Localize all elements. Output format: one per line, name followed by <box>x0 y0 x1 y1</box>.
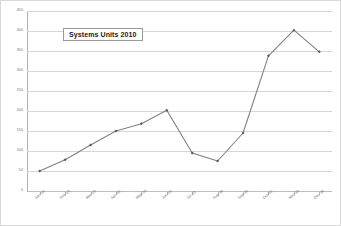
series-polyline <box>40 30 320 171</box>
y-axis-tick-label: 0 <box>3 189 23 193</box>
y-axis-tick-label: 400 <box>3 29 23 33</box>
y-axis-tick-label: 300 <box>3 69 23 73</box>
y-axis-tick-label: 450 <box>3 9 23 13</box>
y-axis-tick-label: 250 <box>3 89 23 93</box>
y-axis-tick-label: 350 <box>3 49 23 53</box>
y-axis-tick-label: 100 <box>3 149 23 153</box>
y-axis-tick-label: 150 <box>3 129 23 133</box>
x-axis-tick-label: Oct-10 <box>262 189 274 200</box>
chart-container: 050100150200250300350400450 Jan-10Feb-10… <box>0 0 341 226</box>
x-axis-tick-labels: Jan-10Feb-10Mar-10Apr-10May-10Jun-10Jul-… <box>27 192 332 226</box>
y-axis-tick-label: 50 <box>3 169 23 173</box>
y-axis-tick-label: 200 <box>3 109 23 113</box>
x-axis-tick-label: Jul-10 <box>186 190 197 200</box>
x-axis-tick-label: Apr-10 <box>110 189 122 200</box>
chart-title: Systems Units 2010 <box>63 28 143 41</box>
